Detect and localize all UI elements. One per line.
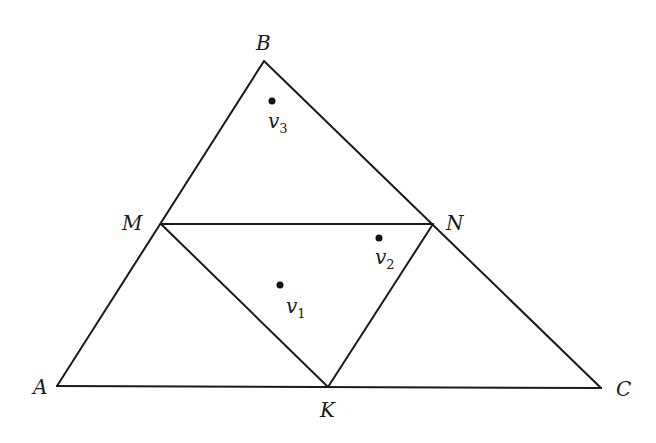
vertex-label-M: M [121,211,143,235]
point-v1-dot [277,282,284,289]
point-label-v3: v3 [268,109,288,136]
point-label-v1-sub: 1 [297,306,305,321]
vertex-label-N: N [445,211,465,235]
point-v2-dot [376,235,383,242]
point-label-v2-base: v [375,245,387,269]
vertex-label-A: A [31,375,47,399]
point-label-v1-base: v [286,294,298,318]
triangle-diagram: B M N A K C v1 v2 v3 [0,0,656,443]
vertex-label-B: B [255,31,271,55]
vertex-label-K: K [319,398,336,422]
point-label-v2: v2 [375,245,395,272]
point-label-v3-sub: 3 [279,121,287,136]
point-label-v3-base: v [268,109,280,133]
point-v3-dot [269,98,276,105]
point-label-v1: v1 [286,294,306,321]
point-label-v2-sub: 2 [386,257,394,272]
vertex-label-C: C [616,377,631,401]
